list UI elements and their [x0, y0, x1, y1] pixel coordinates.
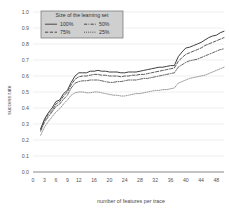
series-line-25pct [41, 67, 224, 135]
x-tick-label: 3 [43, 177, 46, 183]
series-line-100pct [41, 31, 224, 129]
legend-label-50pct: 50% [99, 21, 110, 27]
x-tick-label: 16 [91, 177, 97, 183]
chart-legend: Size of the learning set100%50%75%25% [41, 11, 123, 38]
x-tick-label: 28 [137, 177, 143, 183]
x-tick-label: 0 [32, 177, 35, 183]
x-tick-label: 32 [152, 177, 158, 183]
chart-figure: 0.00.10.20.30.40.50.60.70.80.91.0 036912… [0, 0, 229, 211]
legend-label-100pct: 100% [60, 21, 74, 27]
line-chart: 0.00.10.20.30.40.50.60.70.80.91.0 036912… [0, 0, 229, 211]
legend-title: Size of the learning set [56, 12, 109, 18]
x-tick-label: 24 [122, 177, 128, 183]
x-tick-label: 48 [213, 177, 219, 183]
x-tick-label: 12 [76, 177, 82, 183]
legend-label-75pct: 75% [60, 29, 71, 35]
y-tick-label: 1.0 [22, 9, 29, 15]
x-tick-label: 40 [183, 177, 189, 183]
y-tick-label: 0.1 [22, 153, 29, 159]
x-tick-label: 6 [54, 177, 57, 183]
y-tick-label: 0.5 [22, 89, 29, 95]
x-tick-label: 44 [198, 177, 204, 183]
x-tick-label: 20 [107, 177, 113, 183]
y-tick-label: 0.2 [22, 137, 29, 143]
y-tick-label: 0.3 [22, 121, 29, 127]
x-tick-label: 9 [66, 177, 69, 183]
y-tick-label: 0.8 [22, 41, 29, 47]
y-axis-title: success rate [6, 85, 12, 114]
y-tick-label: 0.6 [22, 73, 29, 79]
y-tick-label: 0.0 [22, 169, 29, 175]
y-tick-label: 0.9 [22, 25, 29, 31]
y-tick-label: 0.4 [22, 105, 29, 111]
x-axis-title: number of features per trace [97, 198, 165, 204]
x-tick-label: 36 [168, 177, 174, 183]
y-tick-label: 0.7 [22, 57, 29, 63]
legend-label-25pct: 25% [99, 29, 110, 35]
series-line-75pct [41, 38, 224, 130]
x-axis-tick-labels: 036912162024283236404448 [32, 177, 220, 183]
data-series-group [41, 31, 224, 135]
y-axis-tick-labels: 0.00.10.20.30.40.50.60.70.80.91.0 [22, 9, 29, 175]
